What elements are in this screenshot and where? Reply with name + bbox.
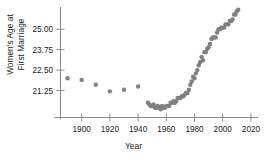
data-point: [136, 84, 140, 88]
data-point: [94, 83, 98, 87]
plot-area: [0, 0, 267, 160]
data-point: [236, 7, 240, 11]
data-point: [230, 17, 234, 21]
data-point: [201, 58, 205, 62]
data-point: [122, 88, 126, 92]
data-point: [213, 35, 217, 39]
data-point-layer: [65, 7, 240, 111]
data-point: [79, 78, 83, 82]
data-point: [108, 89, 112, 93]
data-point: [192, 76, 196, 80]
chart-container: Women's Age at First Marriage 21.2522.50…: [0, 0, 267, 160]
data-point: [65, 76, 69, 80]
data-point: [208, 42, 212, 46]
data-point: [195, 68, 199, 72]
data-point: [187, 88, 191, 92]
